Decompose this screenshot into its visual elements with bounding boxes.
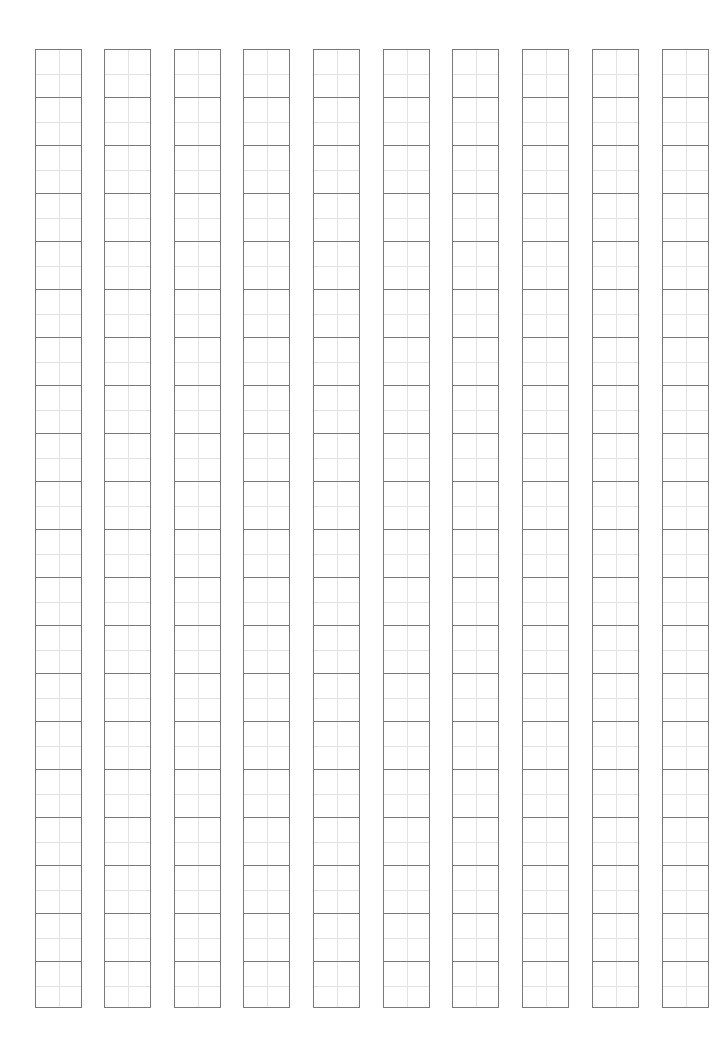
horizontal-guide-line	[314, 74, 359, 75]
horizontal-guide-line	[384, 266, 429, 267]
grid-column-4	[243, 49, 290, 1008]
horizontal-guide-line	[663, 458, 708, 459]
grid-cell	[314, 769, 359, 817]
horizontal-guide-line	[663, 842, 708, 843]
grid-cell	[523, 50, 568, 98]
horizontal-guide-line	[453, 650, 498, 651]
horizontal-guide-line	[523, 266, 568, 267]
horizontal-guide-line	[314, 602, 359, 603]
grid-cell	[175, 817, 220, 865]
horizontal-guide-line	[175, 458, 220, 459]
horizontal-guide-line	[453, 554, 498, 555]
grid-cell	[244, 721, 289, 769]
grid-cell	[36, 913, 81, 961]
horizontal-guide-line	[663, 314, 708, 315]
grid-cell	[384, 769, 429, 817]
grid-cell	[384, 961, 429, 1009]
horizontal-guide-line	[384, 938, 429, 939]
horizontal-guide-line	[36, 458, 81, 459]
grid-cell	[105, 673, 150, 721]
grid-cell	[175, 97, 220, 145]
horizontal-guide-line	[175, 746, 220, 747]
grid-cell	[105, 913, 150, 961]
horizontal-guide-line	[314, 458, 359, 459]
horizontal-guide-line	[36, 170, 81, 171]
horizontal-guide-line	[105, 218, 150, 219]
grid-cell	[593, 961, 638, 1009]
grid-cell	[244, 481, 289, 529]
grid-cell	[244, 817, 289, 865]
horizontal-guide-line	[244, 986, 289, 987]
grid-cell	[663, 433, 708, 481]
horizontal-guide-line	[663, 74, 708, 75]
horizontal-guide-line	[663, 266, 708, 267]
grid-cell	[244, 97, 289, 145]
horizontal-guide-line	[384, 650, 429, 651]
grid-cell	[663, 673, 708, 721]
grid-cell	[523, 769, 568, 817]
horizontal-guide-line	[593, 314, 638, 315]
horizontal-guide-line	[175, 842, 220, 843]
grid-cell	[105, 193, 150, 241]
horizontal-guide-line	[593, 842, 638, 843]
horizontal-guide-line	[384, 458, 429, 459]
grid-column-9	[592, 49, 639, 1008]
grid-cell	[453, 385, 498, 433]
grid-cell	[244, 145, 289, 193]
grid-cell	[314, 817, 359, 865]
horizontal-guide-line	[314, 170, 359, 171]
horizontal-guide-line	[593, 986, 638, 987]
horizontal-guide-line	[453, 938, 498, 939]
grid-cell	[105, 289, 150, 337]
grid-cell	[36, 721, 81, 769]
horizontal-guide-line	[314, 794, 359, 795]
horizontal-guide-line	[175, 122, 220, 123]
grid-cell	[453, 865, 498, 913]
horizontal-guide-line	[663, 602, 708, 603]
grid-cell	[663, 913, 708, 961]
grid-cell	[593, 50, 638, 98]
horizontal-guide-line	[663, 506, 708, 507]
grid-cell	[105, 961, 150, 1009]
horizontal-guide-line	[593, 602, 638, 603]
grid-cell	[663, 97, 708, 145]
grid-cell	[175, 529, 220, 577]
horizontal-guide-line	[384, 842, 429, 843]
horizontal-guide-line	[105, 794, 150, 795]
grid-cell	[593, 385, 638, 433]
grid-cell	[453, 529, 498, 577]
grid-cell	[244, 337, 289, 385]
horizontal-guide-line	[105, 842, 150, 843]
horizontal-guide-line	[36, 266, 81, 267]
grid-cell	[384, 50, 429, 98]
horizontal-guide-line	[453, 602, 498, 603]
horizontal-guide-line	[314, 698, 359, 699]
grid-cell	[453, 433, 498, 481]
grid-cell	[593, 145, 638, 193]
grid-cell	[384, 913, 429, 961]
grid-cell	[105, 865, 150, 913]
horizontal-guide-line	[453, 746, 498, 747]
horizontal-guide-line	[663, 794, 708, 795]
horizontal-guide-line	[314, 890, 359, 891]
grid-cell	[314, 673, 359, 721]
horizontal-guide-line	[105, 314, 150, 315]
horizontal-guide-line	[314, 938, 359, 939]
horizontal-guide-line	[593, 362, 638, 363]
grid-cell	[36, 241, 81, 289]
grid-cell	[384, 97, 429, 145]
horizontal-guide-line	[453, 74, 498, 75]
horizontal-guide-line	[523, 986, 568, 987]
grid-cell	[453, 673, 498, 721]
grid-cell	[523, 673, 568, 721]
grid-cell	[523, 337, 568, 385]
grid-cell	[384, 433, 429, 481]
grid-cell	[384, 385, 429, 433]
grid-cell	[384, 337, 429, 385]
horizontal-guide-line	[384, 170, 429, 171]
grid-cell	[663, 625, 708, 673]
grid-cell	[384, 241, 429, 289]
grid-cell	[663, 145, 708, 193]
grid-cell	[523, 289, 568, 337]
horizontal-guide-line	[384, 602, 429, 603]
